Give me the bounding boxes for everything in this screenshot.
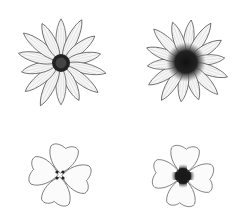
flower-center bbox=[166, 42, 206, 82]
flower-illustration bbox=[0, 0, 252, 224]
daisy-light-center-flower bbox=[17, 18, 107, 108]
four-petal-dark-flower bbox=[152, 145, 214, 207]
four-petal-light-flower bbox=[28, 143, 92, 207]
stamen bbox=[55, 170, 58, 173]
stamen bbox=[55, 176, 58, 179]
flower-drawing bbox=[0, 0, 252, 224]
daisy-dark-center-flower bbox=[145, 19, 229, 103]
stamen bbox=[61, 176, 64, 179]
stamen bbox=[61, 170, 64, 173]
